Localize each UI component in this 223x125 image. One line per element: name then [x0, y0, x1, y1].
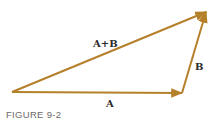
label-b: B	[195, 61, 203, 72]
label-a: A	[105, 98, 114, 109]
vector-diagram: A+B B A	[0, 0, 223, 125]
vector-b	[182, 12, 206, 93]
label-a-plus-b: A+B	[92, 38, 118, 49]
vector-a-plus-b	[12, 12, 206, 92]
figure-caption: FIGURE 9-2	[6, 109, 61, 120]
vector-a	[12, 92, 182, 93]
